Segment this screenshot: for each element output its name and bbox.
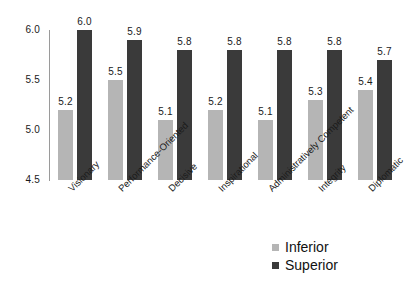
y-axis-tick-6-0: 6.0 (0, 25, 40, 35)
legend-label-superior: Superior (285, 257, 338, 273)
bar-value-label: 6.0 (68, 17, 101, 27)
bar-value-label: 5.8 (218, 37, 251, 47)
bar-rect-superior (77, 30, 92, 180)
bar-rect-inferior (358, 90, 373, 180)
bar-rect-inferior (258, 120, 273, 180)
bar-value-label: 5.9 (118, 27, 151, 37)
bar-inferior[interactable]: 5.2 (58, 12, 73, 180)
bar-group: 5.26.0 (55, 12, 101, 180)
bar-value-label: 5.8 (168, 37, 201, 47)
bar-group: 5.45.7 (355, 12, 401, 180)
bar-rect-inferior (108, 80, 123, 180)
legend-swatch-superior-icon (272, 262, 279, 269)
bar-rect-inferior (208, 110, 223, 180)
bar-superior[interactable]: 5.7 (377, 12, 392, 180)
plot-area: 5.26.05.55.95.15.85.25.85.15.85.35.85.45… (49, 12, 419, 180)
legend-item-inferior[interactable]: Inferior (272, 238, 392, 256)
bar-superior[interactable]: 6.0 (77, 12, 92, 180)
y-axis-tick-5-0: 5.0 (0, 125, 40, 135)
bar-inferior[interactable]: 5.4 (358, 12, 373, 180)
y-axis-tick-5-5: 5.5 (0, 75, 40, 85)
bar-group: 5.15.8 (255, 12, 301, 180)
bar-value-label: 5.8 (318, 37, 351, 47)
legend-label-inferior: Inferior (285, 239, 329, 255)
bar-superior[interactable]: 5.8 (177, 12, 192, 180)
bar-superior[interactable]: 5.8 (327, 12, 342, 180)
bar-superior[interactable]: 5.9 (127, 12, 142, 180)
legend-swatch-inferior-icon (272, 244, 279, 251)
bar-group: 5.25.8 (205, 12, 251, 180)
y-axis-tick-4-5: 4.5 (0, 175, 40, 185)
legend-item-superior[interactable]: Superior (272, 256, 392, 274)
bar-superior[interactable]: 5.8 (227, 12, 242, 180)
bar-superior[interactable]: 5.8 (277, 12, 292, 180)
bar-value-label: 5.7 (368, 47, 401, 57)
bar-inferior[interactable]: 5.5 (108, 12, 123, 180)
bar-rect-inferior (58, 110, 73, 180)
chart-legend: Inferior Superior (272, 238, 392, 274)
bar-value-label: 5.8 (268, 37, 301, 47)
bar-rect-superior (127, 40, 142, 180)
bar-chart: 4.55.05.56.0 5.26.05.55.95.15.85.25.85.1… (0, 0, 419, 291)
bar-group: 5.55.9 (105, 12, 151, 180)
